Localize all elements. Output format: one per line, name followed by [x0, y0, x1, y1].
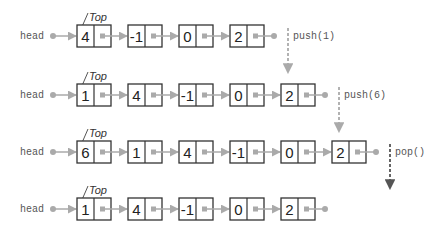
null-pointer-dot	[373, 149, 379, 155]
next-pointer-icon	[253, 34, 258, 39]
list-node: 4	[77, 25, 127, 47]
list-row: headTop14-102	[20, 70, 328, 106]
next-pointer-icon	[100, 93, 105, 98]
next-pointer-icon	[304, 207, 309, 212]
operation-push: push(1)	[288, 28, 335, 73]
list-node: 2	[281, 84, 328, 106]
head-label: head	[20, 31, 44, 42]
next-pointer-icon	[100, 150, 105, 155]
next-pointer-icon	[100, 34, 105, 39]
next-pointer-icon	[202, 93, 207, 98]
next-pointer-icon	[202, 34, 207, 39]
node-value: 0	[183, 28, 191, 45]
list-node: 0	[281, 141, 331, 163]
operation-label: push(6)	[344, 90, 386, 101]
list-node: 0	[179, 25, 229, 47]
node-value: 4	[132, 201, 140, 218]
list-node: 2	[332, 141, 379, 163]
node-value: 2	[336, 144, 344, 161]
node-value: 0	[234, 87, 242, 104]
node-value: 4	[81, 28, 89, 45]
list-node: 6	[77, 141, 127, 163]
node-value: -1	[181, 87, 194, 104]
next-pointer-icon	[202, 207, 207, 212]
next-pointer-icon	[304, 150, 309, 155]
head-label: head	[20, 204, 44, 215]
list-node: 4	[128, 84, 178, 106]
head-label: head	[20, 147, 44, 158]
list-row: headTop614-102	[20, 127, 379, 163]
null-pointer-dot	[322, 206, 328, 212]
node-value: -1	[130, 28, 143, 45]
node-value: 2	[285, 201, 293, 218]
top-label: Top	[89, 11, 107, 23]
null-pointer-dot	[322, 92, 328, 98]
operation-label: pop()	[395, 147, 425, 158]
list-node: -1	[128, 25, 178, 47]
linked-list-stack-diagram: headTop4-102headTop14-102headTop614-102h…	[0, 0, 443, 231]
node-value: 1	[81, 87, 89, 104]
operation-push: push(6)	[339, 87, 386, 132]
node-value: 6	[81, 144, 89, 161]
node-value: 4	[183, 144, 191, 161]
node-value: -1	[181, 201, 194, 218]
next-pointer-icon	[304, 93, 309, 98]
top-label: Top	[89, 127, 107, 139]
list-node: 2	[230, 25, 277, 47]
next-pointer-icon	[151, 93, 156, 98]
next-pointer-icon	[253, 93, 258, 98]
node-value: 1	[132, 144, 140, 161]
list-node: 1	[77, 198, 127, 220]
next-pointer-icon	[100, 207, 105, 212]
node-value: -1	[232, 144, 245, 161]
head-label: head	[20, 90, 44, 101]
list-row: headTop4-102	[20, 11, 277, 47]
node-value: 1	[81, 201, 89, 218]
node-value: 2	[285, 87, 293, 104]
operation-label: push(1)	[293, 31, 335, 42]
next-pointer-icon	[355, 150, 360, 155]
list-row: headTop14-102	[20, 184, 328, 220]
next-pointer-icon	[253, 150, 258, 155]
node-value: 0	[285, 144, 293, 161]
list-node: 0	[230, 198, 280, 220]
list-node: 2	[281, 198, 328, 220]
operation-pop: pop()	[390, 144, 425, 189]
list-node: -1	[179, 198, 229, 220]
next-pointer-icon	[202, 150, 207, 155]
null-pointer-dot	[271, 33, 277, 39]
list-node: -1	[179, 84, 229, 106]
node-value: 0	[234, 201, 242, 218]
list-node: 1	[77, 84, 127, 106]
top-label: Top	[89, 70, 107, 82]
list-node: -1	[230, 141, 280, 163]
next-pointer-icon	[151, 34, 156, 39]
node-value: 2	[234, 28, 242, 45]
list-node: 1	[128, 141, 178, 163]
next-pointer-icon	[151, 150, 156, 155]
next-pointer-icon	[151, 207, 156, 212]
next-pointer-icon	[253, 207, 258, 212]
list-node: 4	[179, 141, 229, 163]
list-node: 0	[230, 84, 280, 106]
node-value: 4	[132, 87, 140, 104]
top-label: Top	[89, 184, 107, 196]
list-node: 4	[128, 198, 178, 220]
